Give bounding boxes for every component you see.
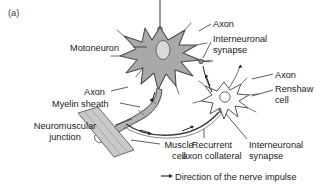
label-neuromuscular-junction: Neuromuscularjunction — [17, 121, 113, 142]
label-recurrent-collateral-line1: Recurrent — [192, 140, 232, 150]
label-interneuronal-synapse-bottom-line1: Interneuronal — [249, 140, 303, 150]
leader-axon-top — [199, 24, 211, 31]
legend-text: Direction of the nerve impulse — [175, 172, 297, 183]
label-renshaw-line2: cell — [275, 95, 289, 105]
renshaw-cell-nucleus — [220, 92, 230, 102]
impulse-arrow-collateral-2-icon — [182, 127, 192, 131]
label-recurrent-collateral-line2: axon collateral — [182, 151, 241, 161]
label-axon-top: Axon — [213, 19, 234, 30]
label-axon-left: Axon — [84, 87, 105, 98]
leader-axon-left — [111, 87, 128, 91]
label-interneuronal-synapse-top-line2: synapse — [213, 45, 247, 55]
label-interneuronal-synapse-top: Interneuronalsynapse — [213, 34, 267, 55]
leader-myelin-sheath — [120, 103, 140, 107]
legend-arrow-group — [161, 174, 173, 178]
leader-axon-right — [252, 74, 273, 79]
label-recurrent-axon-collateral: Recurrentaxon collateral — [181, 140, 243, 161]
leader-muscle-cell — [131, 140, 160, 144]
label-interneuronal-synapse-bottom-line2: synapse — [249, 151, 283, 161]
synapse-terminal-icon-top — [199, 59, 203, 63]
recurrent-axon-collateral-group — [124, 107, 225, 138]
motoneuron-nucleus — [156, 41, 170, 60]
leader-interneuronal-synapse-bottom — [226, 114, 247, 139]
label-renshaw-line1: Renshaw — [275, 84, 313, 94]
label-renshaw-cell: Renshawcell — [275, 84, 313, 105]
label-interneuronal-synapse-bottom: Interneuronalsynapse — [249, 140, 303, 161]
legend-arrow-head-icon — [169, 174, 173, 178]
leader-interneuronal-synapse-top — [203, 42, 211, 58]
label-neuromuscular-junction-line1: Neuromuscular — [34, 121, 96, 131]
motoneuron-group — [111, 0, 213, 94]
figure-panel-a: (a) Motoneuron Axon Interneuronalsynapse… — [0, 0, 323, 193]
label-neuromuscular-junction-line2: junction — [49, 132, 81, 142]
impulse-arrowhead-renshaw-upper-icon — [238, 64, 242, 67]
renshaw-cell-group — [193, 64, 258, 119]
label-motoneuron: Motoneuron — [70, 43, 119, 54]
label-interneuronal-synapse-top-line1: Interneuronal — [213, 34, 267, 44]
leader-renshaw-cell — [252, 90, 273, 96]
label-axon-right: Axon — [275, 70, 296, 81]
label-myelin-sheath: Myelin sheath — [52, 99, 109, 110]
renshaw-axon-upper-branch — [229, 66, 240, 88]
panel-label: (a) — [8, 8, 19, 19]
